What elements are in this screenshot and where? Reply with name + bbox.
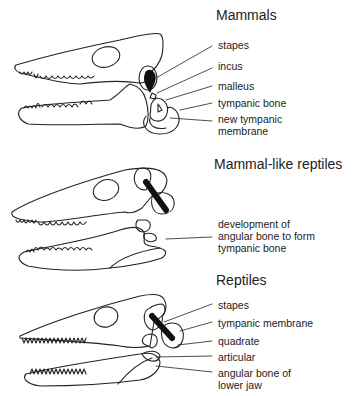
label-stapes-reptile: stapes [218,299,249,311]
label-membrane: membrane [218,125,268,137]
panel-title-reptiles: Reptiles [216,272,267,288]
panel-title-mammals: Mammals [216,7,277,23]
label-new-tympanic: new tympanic [218,113,282,125]
panel-title-mammal-like-reptiles: Mammal-like reptiles [214,156,342,172]
label-angular-bone-of: angular bone of [218,367,291,379]
label-angular-bone-to-form: angular bone to form [218,230,315,242]
reptile-skull [20,294,183,386]
label-tympanic-bone-2: tympanic bone [218,242,286,254]
diagram-drawing [0,0,359,396]
label-lower-jaw: lower jaw [218,379,262,391]
mammal-skull [15,33,179,134]
label-stapes: stapes [218,39,249,51]
mammal-like-reptile-skull [12,168,175,270]
label-articular: articular [218,351,255,363]
label-development-of: development of [218,218,290,230]
label-incus: incus [218,60,243,72]
label-malleus: malleus [218,80,254,92]
label-quadrate: quadrate [218,335,259,347]
label-tympanic-membrane: tympanic membrane [218,317,313,329]
label-tympanic-bone: tympanic bone [218,97,286,109]
mammal-leader-lines [156,46,212,121]
mammal-like-reptile-leader-lines [166,237,212,239]
